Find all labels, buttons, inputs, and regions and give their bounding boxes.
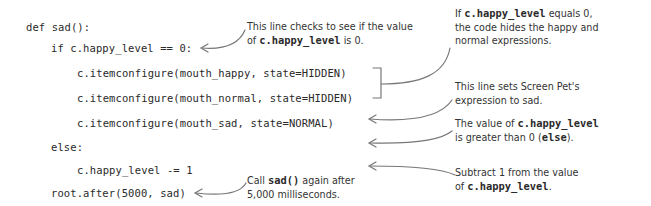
annotation-text: . — [549, 181, 552, 192]
code-reference: else — [542, 131, 567, 143]
bracket-hidden-lines — [373, 68, 381, 98]
annotation-text: of — [247, 35, 259, 46]
annotation-text: is greater than 0 (else). — [455, 131, 599, 145]
arrow-check-zero — [202, 30, 245, 48]
annotation-hides-expressions: If c.happy_level equals 0, the code hide… — [455, 7, 598, 48]
annotation-text: normal expressions. — [455, 34, 598, 48]
code-reference: c.happy_level — [517, 117, 598, 129]
annotation-greater-than-zero: The value of c.happy_level is greater th… — [455, 117, 599, 144]
annotation-text: The value of c.happy_level — [455, 117, 599, 131]
code-reference: c.happy_level — [464, 7, 545, 19]
arrow-call-again — [196, 183, 246, 194]
connector-hides — [381, 48, 450, 84]
annotation-text: of c.happy_level. — [455, 180, 578, 194]
annotation-text: If c.happy_level equals 0, — [455, 7, 598, 21]
code-reference: c.happy_level — [259, 34, 340, 46]
annotation-text: the code hides the happy and — [455, 21, 598, 35]
annotation-text: again after — [299, 175, 354, 186]
annotation-text: Call sad() again after — [247, 174, 355, 188]
annotation-text: This line checks to see if the value — [247, 20, 413, 34]
arrow-subtract — [370, 166, 455, 175]
annotation-text: ). — [567, 132, 574, 143]
annotation-text: is 0. — [341, 35, 364, 46]
annotation-text: This line sets Screen Pet's — [455, 80, 580, 94]
annotation-sets-sad: This line sets Screen Pet's expression t… — [455, 80, 580, 107]
annotation-text: 5,000 milliseconds. — [247, 188, 355, 202]
annotation-text: expression to sad. — [455, 94, 580, 108]
annotation-text: If — [455, 8, 464, 19]
arrow-sets-sad — [370, 100, 452, 120]
annotation-text: of c.happy_level is 0. — [247, 34, 413, 48]
annotation-text: The value of — [455, 118, 517, 129]
annotation-text: of — [455, 181, 467, 192]
code-reference: c.happy_level — [467, 180, 548, 192]
arrow-else — [370, 131, 452, 143]
code-reference: sad() — [268, 174, 299, 186]
annotation-call-again: Call sad() again after 5,000 millisecond… — [247, 174, 355, 201]
annotation-text: is greater than 0 ( — [455, 132, 542, 143]
annotation-subtract-one: Subtract 1 from the value of c.happy_lev… — [455, 166, 578, 193]
annotation-text: Call — [247, 175, 268, 186]
annotation-check-zero: This line checks to see if the value of … — [247, 20, 413, 47]
annotation-text: equals 0, — [546, 8, 593, 19]
annotation-text: Subtract 1 from the value — [455, 166, 578, 180]
